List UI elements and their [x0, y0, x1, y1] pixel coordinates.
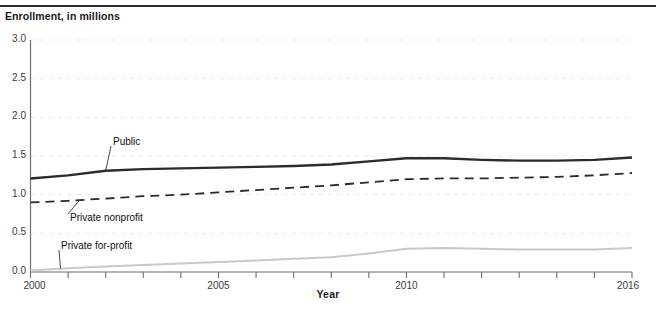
y-tick-label: 1.5: [0, 149, 26, 160]
gridlines: [31, 40, 633, 272]
x-axis-ticks: [31, 272, 633, 278]
y-tick-label: 0.0: [0, 265, 26, 276]
x-axis-title: Year: [0, 288, 656, 300]
y-tick-label: 2.5: [0, 72, 26, 83]
series-line-private-for-profit: [31, 248, 633, 270]
series-line-private-nonprofit: [31, 173, 633, 202]
enrollment-line-chart: Enrollment, in millions 0.00.51.01.52.02…: [0, 0, 656, 314]
series-line-public: [31, 158, 633, 179]
y-tick-label: 0.5: [0, 226, 26, 237]
y-tick-label: 1.0: [0, 188, 26, 199]
annotation-label-public: Public: [113, 136, 140, 147]
y-tick-label: 3.0: [0, 33, 26, 44]
annotation-label-private-for-profit: Private for-profit: [61, 240, 132, 251]
y-tick-label: 2.0: [0, 110, 26, 121]
annotation-label-private-nonprofit: Private nonprofit: [70, 212, 143, 223]
plot-area: [0, 0, 656, 314]
